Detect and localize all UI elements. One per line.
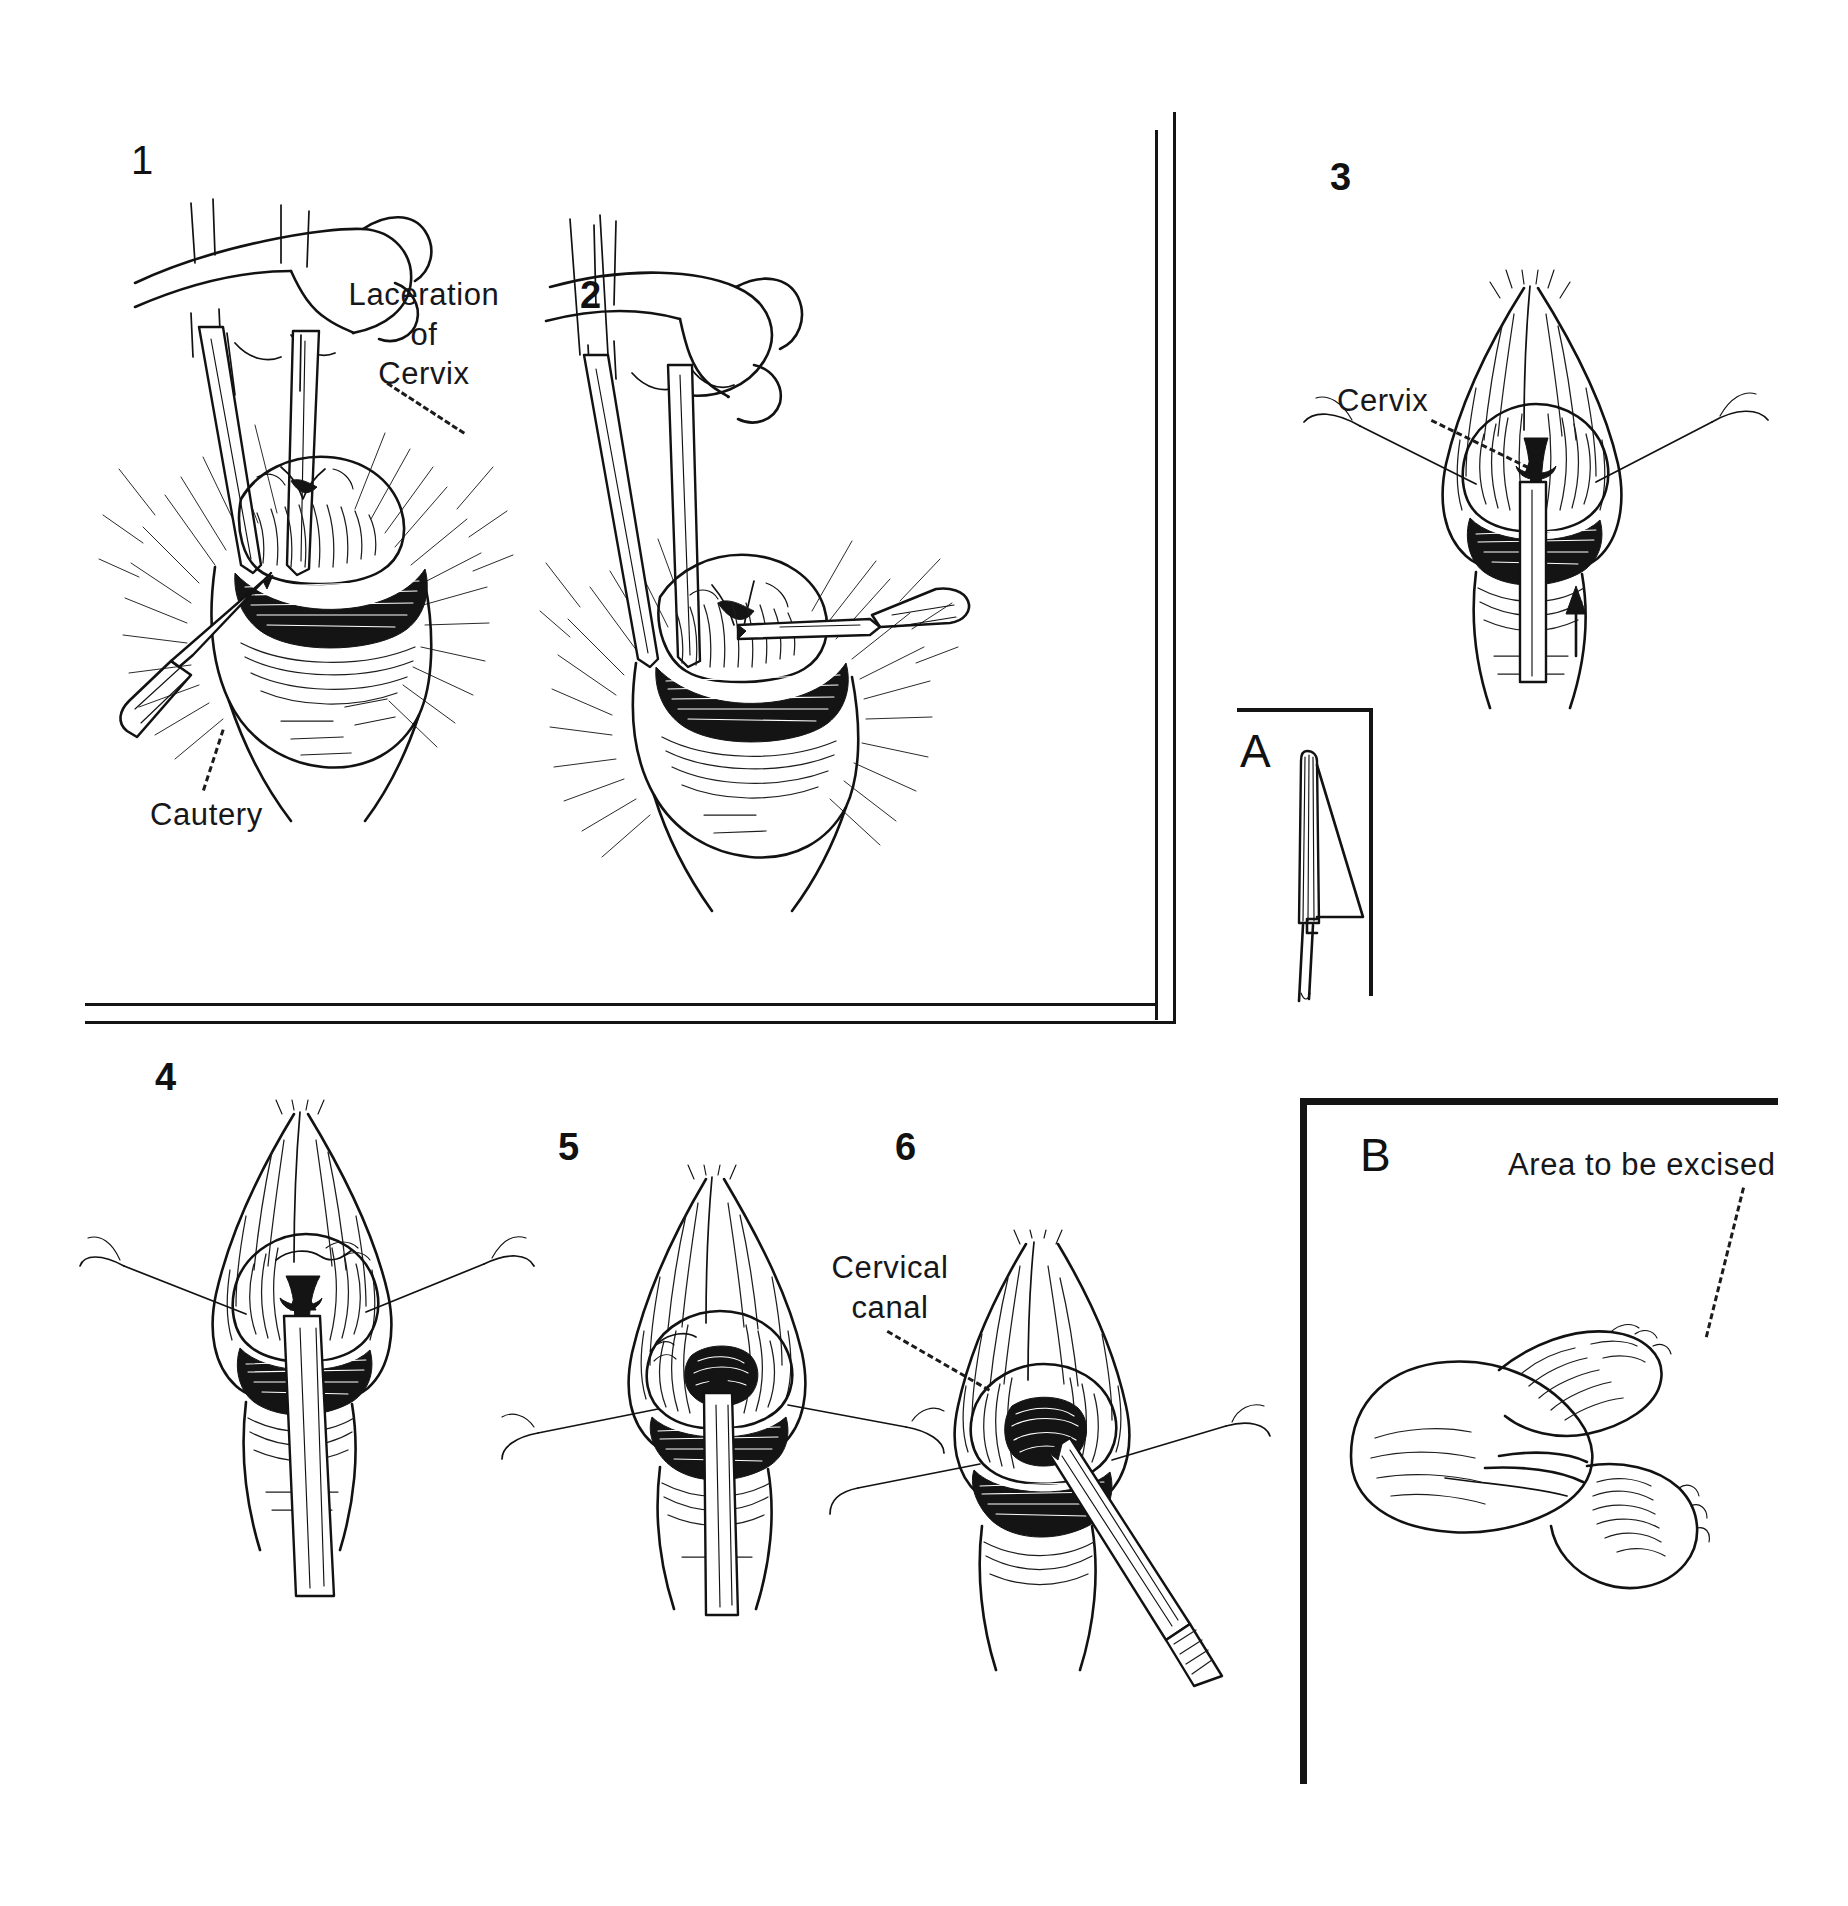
laceration-wedge bbox=[690, 581, 788, 627]
canal-probe bbox=[704, 1369, 738, 1615]
retracted-vaginal-walls bbox=[955, 1230, 1130, 1513]
canal-instrument bbox=[284, 1292, 334, 1596]
panel-3-number: 3 bbox=[1330, 158, 1352, 196]
label-laceration-of-cervix: Laceration of Cervix bbox=[336, 275, 512, 394]
cervix-hatching bbox=[257, 505, 376, 567]
vaginal-ridges bbox=[241, 643, 415, 755]
panel-3-artwork bbox=[1280, 270, 1780, 720]
cervix-disc bbox=[971, 1364, 1117, 1484]
canal-dilator bbox=[1048, 1438, 1222, 1686]
panel-2-artwork bbox=[540, 215, 1010, 915]
illustration-plate: 1 bbox=[0, 0, 1848, 1906]
frame-upper-vertical-inner bbox=[1173, 112, 1176, 1024]
label-area-to-be-excised: Area to be excised bbox=[1508, 1145, 1776, 1185]
scalpel-handle-and-blade bbox=[1299, 751, 1363, 1001]
label-cervix: Cervix bbox=[1337, 381, 1428, 421]
panel-4-artwork bbox=[80, 1100, 570, 1620]
sagittal-cervix bbox=[1351, 1325, 1709, 1588]
label-cervical-canal: Cervical canal bbox=[820, 1248, 960, 1327]
label-cautery: Cautery bbox=[150, 795, 263, 835]
panel-4-number: 4 bbox=[155, 1058, 177, 1096]
panel-5-number: 5 bbox=[558, 1128, 580, 1166]
anterior-flap-hatching bbox=[1521, 1341, 1645, 1420]
inset-b-top-rule bbox=[1300, 1098, 1778, 1105]
vaginal-ridges bbox=[662, 737, 836, 833]
cautery-instrument bbox=[738, 589, 969, 640]
panel-1-artwork bbox=[95, 95, 525, 825]
inset-b-artwork bbox=[1335, 1270, 1785, 1670]
ring-forceps bbox=[570, 215, 700, 667]
lower-vagina bbox=[980, 1526, 1096, 1670]
frame-upper-vertical-outer bbox=[1155, 130, 1158, 1020]
frame-upper-horizontal-inner bbox=[85, 1021, 1176, 1024]
inset-a-artwork bbox=[1255, 735, 1415, 1005]
panel-6-number: 6 bbox=[895, 1128, 917, 1166]
scar-margin-anterior bbox=[1611, 1325, 1671, 1354]
posterior-flap-hatching bbox=[1593, 1479, 1665, 1556]
cervix-and-vaginal-wall bbox=[633, 555, 858, 911]
frame-upper-horizontal-outer bbox=[85, 1003, 1158, 1006]
ring-forceps bbox=[199, 327, 319, 575]
inset-b-letter: B bbox=[1360, 1132, 1391, 1178]
canal-probe bbox=[1520, 460, 1546, 682]
